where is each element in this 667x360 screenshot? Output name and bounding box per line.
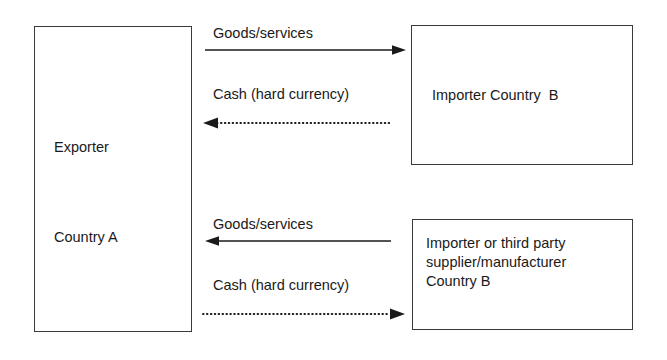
flow-label-cash-hard-currency-bottom: Cash (hard currency) [213,277,349,294]
flow-label-cash-hard-currency-top: Cash (hard currency) [213,86,349,103]
arrow-cash-hard-currency-bottom [201,306,407,322]
box-exporter-line2: Country A [54,228,118,247]
arrow-goods-services-bottom [203,233,393,249]
flow-label-goods-services-top: Goods/services [213,25,313,42]
diagram-canvas: Exporter Country A Importer Country B Im… [0,0,667,360]
box-exporter-line1: Exporter [54,138,109,157]
arrow-goods-services-top [203,42,409,58]
box-importer-third-party-line3: Country B [426,272,490,291]
arrow-cash-hard-currency-top [201,115,393,131]
box-exporter [34,26,192,332]
flow-label-goods-services-bottom: Goods/services [213,216,313,233]
box-importer-third-party-line2: supplier/manufacturer [426,253,566,272]
box-importer-country-b-line1: Importer Country B [432,86,559,105]
box-importer-third-party-line1: Importer or third party [426,234,565,253]
